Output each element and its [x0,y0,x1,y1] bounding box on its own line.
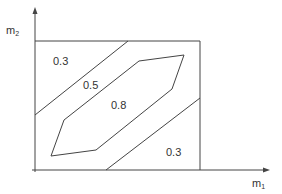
x-axis-label: m1 [252,178,265,190]
region-label-middle: 0.5 [83,80,98,91]
region-label-lower-right: 0.3 [166,147,181,158]
diagram-canvas [0,0,282,194]
y-axis-arrow-icon [33,7,38,14]
x-axis-arrow-icon [263,168,270,173]
y-axis-label: m2 [6,25,19,37]
region-label-upper-left: 0.3 [53,56,68,67]
contour-diagram: m2 m1 0.3 0.5 0.8 0.3 [0,0,282,194]
region-label-center: 0.8 [111,100,126,111]
